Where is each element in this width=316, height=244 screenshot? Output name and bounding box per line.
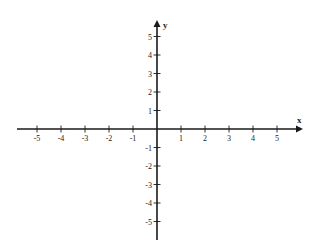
y-axis-arrow-icon bbox=[154, 20, 161, 27]
x-tick-label: 5 bbox=[275, 134, 279, 143]
y-tick-label: -4 bbox=[145, 199, 152, 208]
coordinate-plane: -5-4-3-2-112345 54321-1-2-3-4-5 x y bbox=[0, 0, 316, 244]
y-tick-label: 1 bbox=[148, 107, 152, 116]
x-tick-label: -4 bbox=[58, 134, 65, 143]
y-tick-label: 2 bbox=[148, 88, 152, 97]
y-axis-label: y bbox=[163, 20, 168, 30]
x-tick-label: -2 bbox=[106, 134, 113, 143]
y-tick-label: 3 bbox=[148, 70, 152, 79]
y-tick-label: -3 bbox=[145, 181, 152, 190]
x-tick-label: 1 bbox=[179, 134, 183, 143]
y-tick-label: 5 bbox=[148, 33, 152, 42]
x-tick-label: -5 bbox=[34, 134, 41, 143]
y-tick-label: -2 bbox=[145, 162, 152, 171]
x-axis-arrow-icon bbox=[296, 126, 303, 133]
x-tick-label: 2 bbox=[203, 134, 207, 143]
x-tick-label: 3 bbox=[227, 134, 231, 143]
y-tick-label: -5 bbox=[145, 218, 152, 227]
x-axis bbox=[17, 126, 303, 133]
x-tick-label: 4 bbox=[251, 134, 255, 143]
y-axis bbox=[154, 20, 161, 240]
y-tick-label: -1 bbox=[145, 144, 152, 153]
y-tick-label: 4 bbox=[148, 51, 152, 60]
x-tick-label: -1 bbox=[130, 134, 137, 143]
x-tick-label: -3 bbox=[82, 134, 89, 143]
x-axis-label: x bbox=[297, 115, 302, 125]
